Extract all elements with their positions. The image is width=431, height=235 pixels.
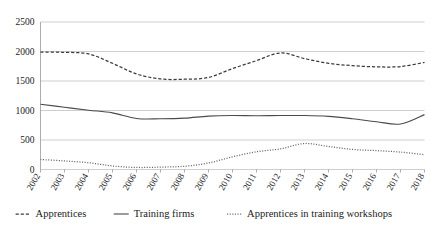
chart-plot-area: 05001000150020002500 2002200320042005200… xyxy=(0,0,431,235)
x-axis-tick-label: 2017 xyxy=(385,171,403,192)
line-chart-figure: 05001000150020002500 2002200320042005200… xyxy=(0,0,431,235)
x-axis-tick-label: 2013 xyxy=(289,171,307,192)
x-axis-tick-label: 2009 xyxy=(193,171,211,192)
data-series-lines xyxy=(41,52,425,167)
x-axis-tick-label: 2008 xyxy=(169,171,187,192)
x-axis-tick-label: 2018 xyxy=(409,171,427,192)
series-line xyxy=(41,104,425,124)
y-axis-tick-labels: 05001000150020002500 xyxy=(16,17,35,175)
x-axis-tick-labels: 2002200320042005200620072008200920102011… xyxy=(25,170,427,193)
chart-legend: ApprenticesTraining firmsApprentices in … xyxy=(16,208,392,219)
x-axis-tick-label: 2004 xyxy=(73,171,91,192)
x-axis-tick-label: 2015 xyxy=(337,171,355,192)
legend-label: Apprentices xyxy=(36,208,87,219)
y-axis-tick-label: 1000 xyxy=(16,106,35,116)
x-axis-tick-label: 2012 xyxy=(265,172,283,193)
series-line xyxy=(41,143,425,167)
legend-label: Apprentices in training workshops xyxy=(247,208,392,219)
x-axis-tick-label: 2005 xyxy=(97,171,115,192)
x-axis-tick-label: 2016 xyxy=(361,171,379,192)
x-axis-tick-label: 2010 xyxy=(217,171,235,192)
y-axis-tick-label: 500 xyxy=(20,135,35,145)
x-axis-tick-label: 2006 xyxy=(121,171,139,192)
x-axis-tick-label: 2007 xyxy=(145,171,163,192)
series-line xyxy=(41,52,425,79)
y-axis-tick-label: 2500 xyxy=(16,17,35,27)
x-axis-tick-label: 2003 xyxy=(49,171,67,192)
y-axis-tick-label: 2000 xyxy=(16,47,35,57)
x-axis-tick-label: 2002 xyxy=(25,172,43,193)
y-axis-tick-label: 1500 xyxy=(16,76,35,86)
legend-label: Training firms xyxy=(134,208,195,219)
gridlines xyxy=(41,22,425,170)
x-axis-tick-label: 2014 xyxy=(313,171,331,192)
x-axis-tick-label: 2011 xyxy=(241,172,258,192)
